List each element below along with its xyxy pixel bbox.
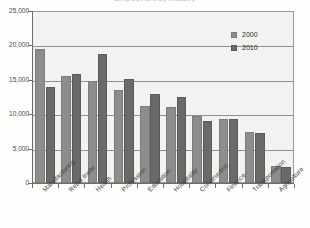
x-tick-mark xyxy=(242,184,243,188)
y-tick-label: 5,000 xyxy=(0,146,29,153)
x-tick-mark xyxy=(32,184,33,188)
bar[interactable] xyxy=(114,90,124,183)
chart-title: Employment by industry xyxy=(0,0,310,2)
x-tick-mark xyxy=(189,184,190,188)
y-tick-label: 10,000 xyxy=(0,111,29,118)
x-tick-mark xyxy=(58,184,59,188)
y-tick-label: 0 xyxy=(0,180,29,187)
legend-item-2000[interactable]: 2000 xyxy=(231,28,287,41)
bar[interactable] xyxy=(35,49,45,183)
x-tick-mark xyxy=(84,184,85,188)
bar[interactable] xyxy=(229,119,239,183)
y-tick-label: 25,000 xyxy=(0,8,29,15)
legend-swatch-icon-2000 xyxy=(231,32,237,38)
bar[interactable] xyxy=(150,94,160,183)
bar[interactable] xyxy=(124,79,134,183)
legend-label-2000: 2000 xyxy=(242,31,258,38)
y-tick-label: 15,000 xyxy=(0,77,29,84)
legend-item-2010[interactable]: 2010 xyxy=(231,41,287,54)
x-tick-mark xyxy=(268,184,269,188)
y-tick-label: 20,000 xyxy=(0,42,29,49)
bar[interactable] xyxy=(177,97,187,183)
legend: 2000 2010 xyxy=(231,28,287,54)
legend-swatch-icon-2010 xyxy=(231,45,237,51)
legend-label-2010: 2010 xyxy=(242,44,258,51)
x-tick-mark xyxy=(215,184,216,188)
bar[interactable] xyxy=(72,74,82,183)
x-tick-mark xyxy=(163,184,164,188)
bar[interactable] xyxy=(98,54,108,183)
x-tick-mark xyxy=(111,184,112,188)
bar[interactable] xyxy=(46,87,56,183)
chart-screenshot: Employment by industry 05,00010,00015,00… xyxy=(0,0,310,228)
x-tick-mark xyxy=(294,184,295,188)
x-tick-mark xyxy=(137,184,138,188)
